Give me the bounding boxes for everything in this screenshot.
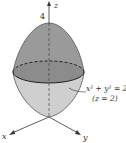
solid-diagram: z 4 x y x² + y² = 2 (z = 2) — [0, 0, 126, 143]
x-axis-label: x — [2, 132, 7, 141]
y-axis — [49, 117, 78, 133]
x-axis — [12, 117, 49, 133]
z-axis-label: z — [53, 1, 59, 10]
z-tick-label: 4 — [40, 12, 45, 21]
annotation-equation: x² + y² = 2 — [86, 84, 126, 93]
annotation-plane: (z = 2) — [92, 94, 118, 103]
z-axis-arrow-icon — [47, 1, 51, 6]
x-axis-arrow-icon — [9, 130, 15, 135]
y-axis-label: y — [82, 133, 88, 142]
y-axis-arrow-icon — [75, 130, 81, 135]
